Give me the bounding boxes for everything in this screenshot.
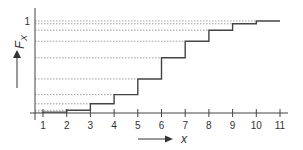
x-tick-label: 3 — [88, 120, 94, 131]
x-tick-label: 9 — [230, 120, 236, 131]
y-tick-label: 1 — [24, 16, 30, 27]
x-tick-label: 1 — [40, 120, 46, 131]
y-arrowhead-icon — [13, 50, 21, 58]
x-tick-label: 11 — [275, 120, 286, 131]
x-tick-label: 7 — [182, 120, 188, 131]
x-axis-label: x — [180, 132, 188, 146]
cdf-step-chart: 12345678910111FXx — [0, 0, 303, 150]
x-tick-label: 4 — [111, 120, 117, 131]
y-axis-label: FX — [12, 34, 29, 49]
x-arrowhead-icon — [165, 136, 173, 143]
chart: 12345678910111FXx — [0, 0, 303, 150]
x-tick-label: 5 — [135, 120, 141, 131]
x-tick-label: 8 — [206, 120, 212, 131]
cdf-step-line — [43, 21, 280, 113]
x-tick-label: 2 — [64, 120, 70, 131]
x-tick-label: 10 — [251, 120, 263, 131]
x-tick-label: 6 — [159, 120, 165, 131]
